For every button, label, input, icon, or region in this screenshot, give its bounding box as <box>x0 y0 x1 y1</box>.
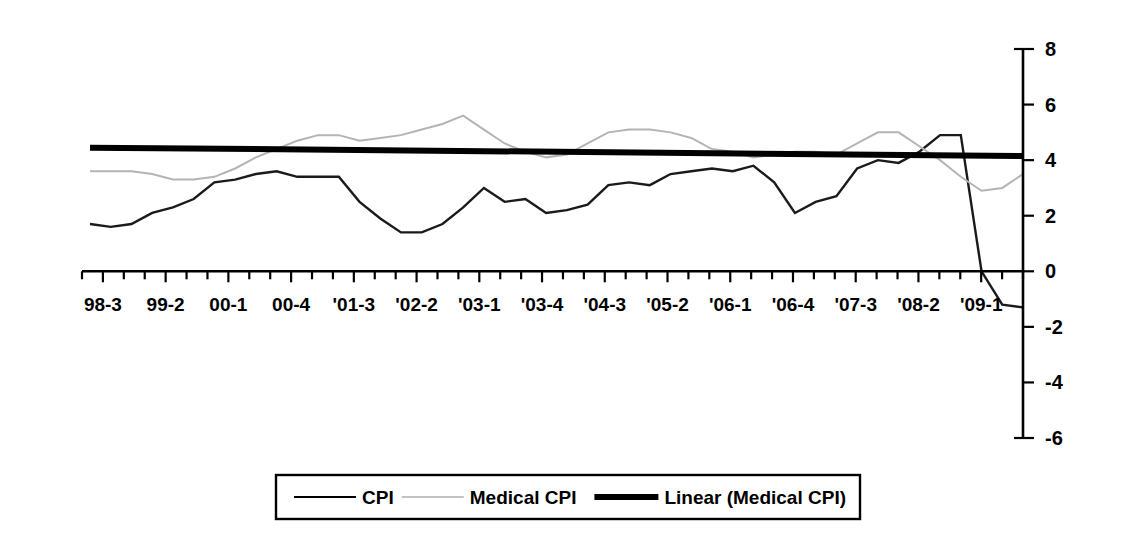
cpi-medical-cpi-line-chart: 98-399-200-100-4'01-3'02-2'03-1'03-4'04-… <box>0 0 1126 555</box>
x-tick-label: '06-1 <box>709 294 752 315</box>
legend-label-medical-cpi: Medical CPI <box>470 487 577 508</box>
y-tick-label: 0 <box>1045 260 1056 282</box>
x-tick-label: '09-1 <box>960 294 1003 315</box>
y-tick-label: 2 <box>1045 205 1056 227</box>
x-tick-label: '03-4 <box>521 294 564 315</box>
chart-legend: CPIMedical CPILinear (Medical CPI) <box>276 475 860 519</box>
y-tick-label: 6 <box>1045 94 1056 116</box>
x-tick-label: 00-4 <box>272 294 310 315</box>
x-tick-label: 98-3 <box>84 294 122 315</box>
y-tick-label: -6 <box>1045 427 1063 449</box>
x-tick-label: 00-1 <box>209 294 247 315</box>
x-tick-labels: 98-399-200-100-4'01-3'02-2'03-1'03-4'04-… <box>84 294 1003 315</box>
x-tick-label: 99-2 <box>147 294 185 315</box>
x-tick-label: '01-3 <box>333 294 376 315</box>
x-tick-label: '02-2 <box>395 294 438 315</box>
x-tick-label: '03-1 <box>458 294 501 315</box>
y-tick-label: 8 <box>1045 38 1056 60</box>
y-tick-label: -2 <box>1045 316 1063 338</box>
x-tick-label: '05-2 <box>646 294 689 315</box>
y-tick-label: -4 <box>1045 371 1064 393</box>
x-tick-label: '04-3 <box>584 294 627 315</box>
x-tick-label: '07-3 <box>834 294 877 315</box>
legend-label-cpi: CPI <box>362 487 394 508</box>
x-tick-label: '08-2 <box>897 294 940 315</box>
legend-label-linear-medical-cpi-: Linear (Medical CPI) <box>664 487 846 508</box>
chart-container: 98-399-200-100-4'01-3'02-2'03-1'03-4'04-… <box>0 0 1126 555</box>
y-tick-label: 4 <box>1045 149 1057 171</box>
x-tick-label: '06-4 <box>772 294 815 315</box>
